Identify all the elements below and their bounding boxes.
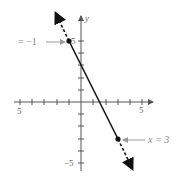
- annotation-left: = −1: [18, 36, 37, 47]
- point-x-3: [115, 136, 120, 141]
- annotation-right: x = 3: [147, 134, 169, 145]
- line-segment: [69, 41, 118, 139]
- point-x-neg1: [66, 38, 71, 43]
- y-tick-label-5: 5: [71, 36, 76, 46]
- y-tick-label-neg5: −5: [64, 158, 74, 168]
- x-tick-label-5: 5: [139, 105, 144, 115]
- line-extension-bottom: [118, 139, 132, 168]
- line-extension-top: [56, 14, 69, 41]
- line-chart: 5 5 5 −5 y = −1 x = 3: [0, 0, 184, 184]
- y-axis-label: y: [84, 13, 89, 23]
- x-tick-label-neg5: 5: [17, 106, 22, 116]
